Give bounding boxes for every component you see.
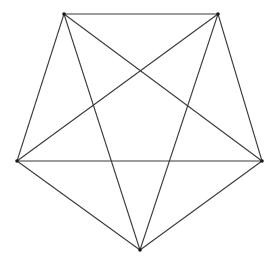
vertex-E bbox=[15, 159, 19, 163]
edge-A-C bbox=[64, 14, 262, 161]
edge-E-A bbox=[17, 14, 64, 161]
edge-C-D bbox=[140, 161, 262, 250]
vertex-A bbox=[62, 12, 66, 16]
edge-B-E bbox=[17, 14, 218, 161]
edge-A-D bbox=[64, 14, 140, 250]
vertices-group bbox=[15, 12, 264, 252]
edges-group bbox=[17, 14, 262, 250]
edge-D-E bbox=[17, 161, 140, 250]
vertex-B bbox=[216, 12, 220, 16]
vertex-D bbox=[138, 248, 142, 252]
complete-graph-k5 bbox=[0, 0, 277, 265]
vertex-C bbox=[260, 159, 264, 163]
edge-B-D bbox=[140, 14, 218, 250]
edge-B-C bbox=[218, 14, 262, 161]
